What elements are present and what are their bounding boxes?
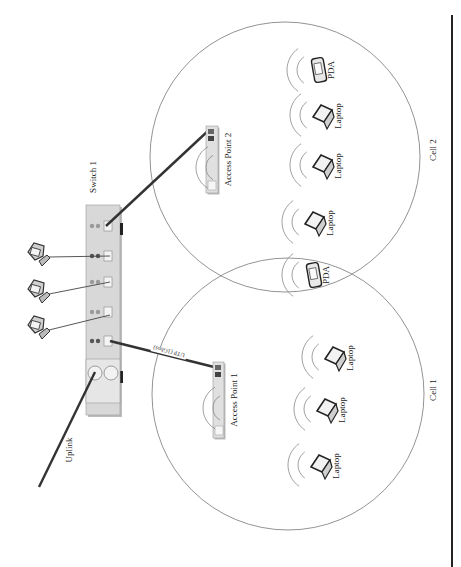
- signal-wave-icon: [300, 152, 307, 178]
- client-label: Laptop: [333, 103, 343, 129]
- access-point-label: Access Point 2: [223, 133, 233, 187]
- signal-wave-icon: [290, 144, 301, 187]
- client-label: Laptop: [333, 153, 343, 179]
- cell-cell1: Cell 1: [152, 258, 438, 530]
- ap-port-icon: [208, 136, 214, 141]
- client-label: Laptop: [331, 453, 341, 479]
- led-indicator: [96, 224, 100, 228]
- signal-wave-icon: [288, 444, 299, 487]
- cell-boundary: [150, 22, 420, 292]
- access-point-ap1: Access Point 1: [203, 362, 239, 440]
- client-label: Laptop: [325, 210, 335, 236]
- signal-wave-icon: [300, 102, 307, 128]
- pda-screen: [314, 63, 323, 75]
- ap-antenna-port: [208, 181, 216, 190]
- ap-port-icon: [215, 365, 221, 370]
- laptop-device: Laptop: [294, 388, 347, 431]
- signal-wave-icon: [302, 336, 313, 379]
- led-indicator: [90, 224, 94, 228]
- signal-wave-icon: [297, 57, 304, 83]
- signal-wave-icon: [282, 201, 293, 244]
- signal-wave-icon: [292, 209, 299, 235]
- laptop-device: Laptop: [288, 444, 341, 487]
- client-label: PDA: [326, 61, 336, 80]
- signal-wave-icon: [290, 94, 301, 137]
- switch-bracket: [120, 223, 123, 235]
- cell-label: Cell 1: [428, 379, 438, 401]
- pda-screen: [309, 268, 318, 280]
- access-point-label: Access Point 1: [229, 373, 239, 427]
- cable-switch-ap2: [106, 130, 209, 226]
- ap-port-icon: [215, 372, 221, 377]
- laptop-device: Laptop: [290, 144, 343, 187]
- signal-wave-icon: [292, 262, 299, 288]
- cable-switch-ap1: [110, 341, 218, 368]
- uplink-cable: [39, 372, 95, 487]
- led-indicator: [96, 310, 100, 314]
- signal-wave-icon: [304, 396, 311, 422]
- signal-wave-icon: [312, 344, 319, 370]
- signal-wave-icon: [282, 254, 293, 297]
- laptop-device: Laptop: [290, 94, 343, 137]
- diagram-canvas: Cell 2Cell 1Switch 1UplinkUTP (1Gbps)Acc…: [0, 0, 461, 567]
- cell-boundary: [152, 258, 424, 530]
- switch-bracket: [120, 371, 123, 383]
- signal-wave-icon: [298, 452, 305, 478]
- led-indicator: [96, 280, 100, 284]
- cell-cell2: Cell 2: [150, 22, 438, 292]
- led-indicator: [96, 339, 100, 343]
- network-diagram: Cell 2Cell 1Switch 1UplinkUTP (1Gbps)Acc…: [0, 0, 461, 567]
- switch-label: Switch 1: [88, 161, 98, 193]
- pda-device: PDA: [287, 49, 336, 92]
- client-label: Laptop: [337, 397, 347, 423]
- cell-label: Cell 2: [428, 139, 438, 161]
- ap-port-icon: [208, 129, 214, 134]
- client-label: Laptop: [345, 345, 355, 371]
- laptop-device: Laptop: [282, 201, 335, 244]
- laptop-device: Laptop: [302, 336, 355, 379]
- client-label: PDA: [321, 266, 331, 285]
- led-indicator: [90, 310, 94, 314]
- uplink-port-icon: [104, 366, 118, 380]
- uplink-label: Uplink: [64, 437, 74, 463]
- ap-antenna-port: [215, 426, 223, 435]
- led-indicator: [90, 280, 94, 284]
- signal-wave-icon: [294, 388, 305, 431]
- signal-wave-icon: [287, 49, 298, 92]
- led-indicator: [90, 339, 94, 343]
